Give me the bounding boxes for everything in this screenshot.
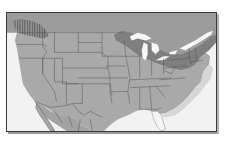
map-frame xyxy=(6,12,217,132)
frame-shadow-bottom xyxy=(8,132,219,134)
us-map xyxy=(7,13,216,131)
frame-shadow-right xyxy=(217,14,219,134)
